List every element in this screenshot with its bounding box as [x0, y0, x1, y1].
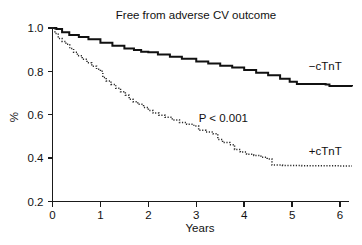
x-axis: 0123456 Years — [49, 202, 349, 235]
x-tick-group: 0123456 — [49, 202, 343, 221]
y-tick-label: 0.4 — [28, 152, 45, 164]
x-tick-label: 4 — [241, 209, 248, 221]
y-axis: 1.00.80.60.40.2 % — [8, 22, 53, 208]
y-tick-group: 1.00.80.60.40.2 — [28, 22, 53, 208]
y-tick-label: 0.8 — [28, 66, 44, 78]
y-tick-label: 0.6 — [28, 109, 44, 121]
y-axis-title: % — [8, 112, 20, 122]
series-label-negative-ctnt: −cTnT — [309, 60, 342, 72]
x-tick-label: 5 — [289, 209, 295, 221]
kaplan-meier-figure: Free from adverse CV outcome 1.00.80.60.… — [0, 0, 362, 245]
survival-curve-negative-ctnt — [53, 28, 352, 87]
x-tick-label: 1 — [97, 209, 103, 221]
y-tick-label: 1.0 — [28, 22, 44, 34]
survival-curve-positive-ctnt — [53, 28, 352, 166]
chart-title: Free from adverse CV outcome — [116, 9, 276, 21]
x-tick-label: 2 — [145, 209, 151, 221]
y-tick-label: 0.2 — [28, 196, 44, 208]
survival-chart: Free from adverse CV outcome 1.00.80.60.… — [0, 0, 362, 245]
series-label-group: −cTnT+cTnT — [309, 60, 342, 157]
annotation-group: P < 0.001 — [199, 112, 248, 124]
p-value-annotation: P < 0.001 — [199, 112, 248, 124]
series-group — [53, 28, 352, 166]
x-tick-label: 0 — [49, 209, 55, 221]
x-axis-title: Years — [186, 222, 215, 234]
x-tick-label: 6 — [337, 209, 343, 221]
x-tick-label: 3 — [193, 209, 199, 221]
series-label-positive-ctnt: +cTnT — [309, 145, 342, 157]
